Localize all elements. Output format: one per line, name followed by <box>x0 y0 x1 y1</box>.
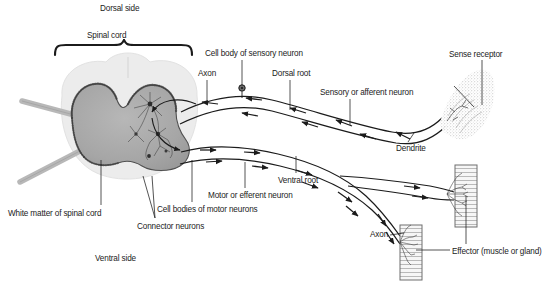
reflex-arc-diagram: Dorsal side Spinal cord Axon Cell body o… <box>0 0 557 282</box>
label-cell-bodies-of-motor-neurons: Cell bodies of motor neurons <box>157 206 257 214</box>
sensory-flow-arrows <box>202 98 410 139</box>
label-ventral-side: Ventral side <box>95 255 136 263</box>
label-cell-body-sensory-neuron: Cell body of sensory neuron <box>205 50 303 58</box>
label-dorsal-root: Dorsal root <box>272 70 310 78</box>
label-ventral-root: Ventral root <box>278 177 318 185</box>
diagram-canvas <box>0 0 557 282</box>
label-motor-or-efferent-neuron: Motor or efferent neuron <box>208 192 293 200</box>
label-white-matter-of-spinal-cord: White matter of spinal cord <box>8 210 101 218</box>
label-dendrite: Dendrite <box>396 145 426 153</box>
effector-muscle-upper <box>447 165 477 227</box>
label-axon-motor: Axon <box>370 231 388 239</box>
label-effector-muscle-or-gland: Effector (muscle or gland) <box>452 248 542 256</box>
sense-receptor <box>440 70 494 139</box>
label-sense-receptor: Sense receptor <box>449 51 502 59</box>
label-dorsal-side: Dorsal side <box>100 5 139 13</box>
label-axon-sensory: Axon <box>198 70 216 78</box>
label-spinal-cord: Spinal cord <box>87 32 126 40</box>
label-connector-neurons: Connector neurons <box>137 223 204 231</box>
label-sensory-or-afferent-neuron: Sensory or afferent neuron <box>320 89 413 97</box>
